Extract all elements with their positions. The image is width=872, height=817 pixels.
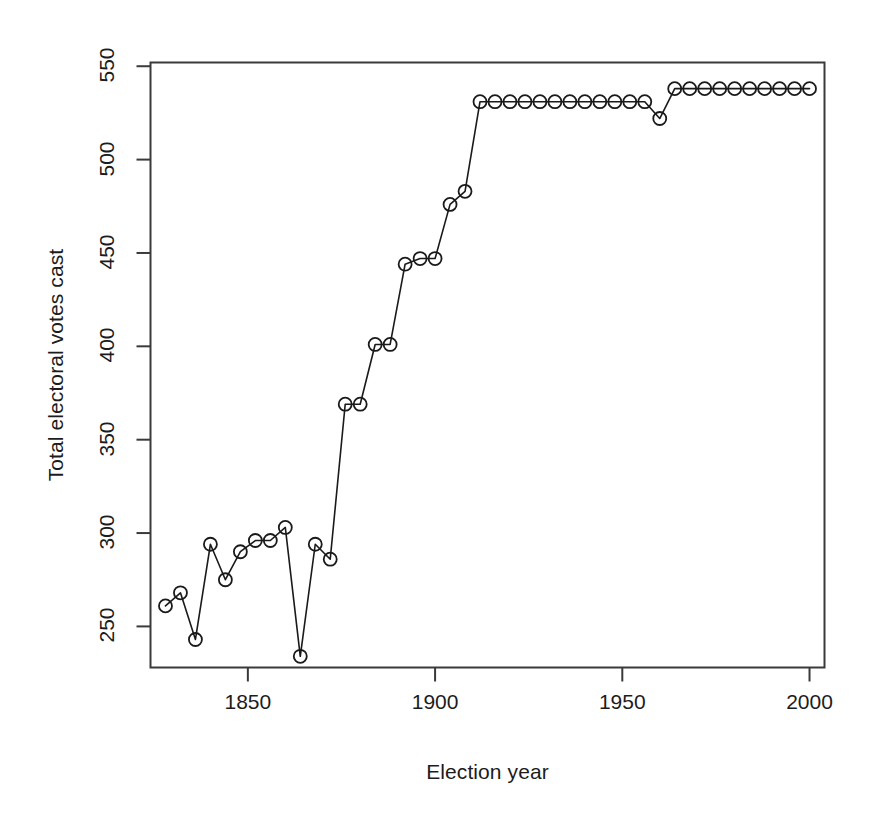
y-axis-ticks (137, 66, 151, 626)
data-series-line (165, 89, 809, 657)
x-tick-label: 1950 (577, 690, 667, 714)
data-point-markers (159, 82, 816, 663)
plot-panel-border (151, 63, 825, 668)
y-axis-title: Total electoral votes cast (44, 62, 68, 668)
chart-figure: Total electoral votes cast Election year… (0, 0, 872, 817)
x-axis-title: Election year (150, 760, 825, 784)
y-tick-label: 300 (95, 502, 119, 562)
y-tick-label: 250 (95, 595, 119, 655)
y-tick-label: 550 (95, 35, 119, 95)
y-tick-label: 500 (95, 129, 119, 189)
x-tick-label: 1900 (390, 690, 480, 714)
y-tick-label: 400 (95, 315, 119, 375)
y-tick-label: 350 (95, 409, 119, 469)
x-tick-label: 1850 (203, 690, 293, 714)
y-tick-label: 450 (95, 222, 119, 282)
x-axis-ticks (248, 668, 810, 682)
x-tick-label: 2000 (765, 690, 855, 714)
